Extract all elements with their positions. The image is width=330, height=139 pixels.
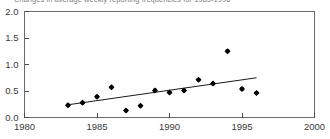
x-axis-ticks — [25, 113, 315, 118]
data-point-marker — [80, 100, 86, 106]
data-point — [225, 48, 231, 54]
data-point — [65, 102, 71, 108]
data-point-marker — [138, 103, 144, 109]
trend-line — [68, 78, 257, 105]
x-tick-label: 1985 — [86, 121, 107, 132]
data-point-marker — [239, 86, 245, 92]
y-axis-tick-labels: 0.00.51.01.52.0 — [5, 6, 18, 123]
data-point — [109, 84, 115, 90]
x-axis-tick-labels: 19801985199019952000 — [14, 121, 325, 132]
data-point-marker — [94, 94, 100, 100]
trend-line-segment — [68, 78, 257, 105]
data-point — [196, 77, 202, 83]
data-point — [123, 108, 129, 114]
chart-figure: Changes in average weekly reporting freq… — [0, 0, 330, 139]
data-point — [94, 94, 100, 100]
data-point — [210, 81, 216, 87]
data-point — [80, 100, 86, 106]
data-point-marker — [225, 48, 231, 54]
x-tick-label: 2000 — [304, 121, 325, 132]
x-tick-label: 1995 — [231, 121, 252, 132]
y-tick-label: 1.5 — [5, 32, 18, 43]
data-point-series — [65, 48, 260, 113]
x-tick-label: 1980 — [14, 121, 35, 132]
y-axis-ticks — [25, 12, 30, 118]
data-point-marker — [196, 77, 202, 83]
scatter-plot: 0.00.51.01.52.0 19801985199019952000 — [0, 0, 330, 139]
y-tick-label: 1.0 — [5, 59, 18, 70]
y-tick-label: 2.0 — [5, 6, 18, 17]
axis-frame — [25, 12, 315, 118]
data-point — [138, 103, 144, 109]
data-point-marker — [254, 90, 260, 96]
data-point-marker — [123, 108, 129, 114]
x-tick-label: 1990 — [159, 121, 180, 132]
data-point-marker — [210, 81, 216, 87]
y-tick-label: 0.5 — [5, 85, 18, 96]
data-point — [239, 86, 245, 92]
data-point-marker — [109, 84, 115, 90]
data-point-marker — [65, 102, 71, 108]
data-point — [254, 90, 260, 96]
